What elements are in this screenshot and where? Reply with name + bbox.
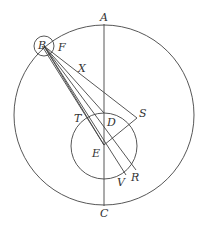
line-b-d [44, 46, 104, 113]
label-r: R [130, 171, 139, 184]
label-s: S [139, 107, 147, 120]
label-d: D [106, 116, 116, 129]
label-x: X [77, 62, 87, 75]
line-b-r [44, 46, 136, 170]
line-b-s [44, 46, 137, 118]
label-b: B [37, 39, 46, 52]
label-f: F [57, 41, 66, 54]
line-b-e-2 [42, 46, 104, 145]
label-e: E [91, 147, 100, 160]
geometry-diagram: A B F X S D T E R V C [0, 0, 204, 228]
label-v: V [117, 176, 126, 189]
label-t: T [74, 112, 83, 125]
label-a: A [99, 11, 108, 24]
label-c: C [100, 207, 109, 220]
